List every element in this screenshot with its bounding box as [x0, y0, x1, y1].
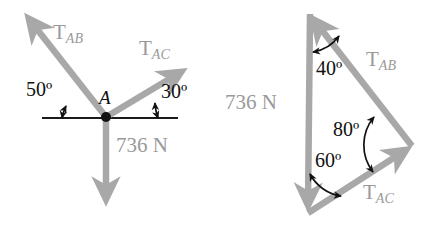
label-tab-right: TAB	[366, 49, 396, 73]
point-a-marker	[101, 112, 111, 122]
angle-label-40: 40º	[316, 58, 342, 78]
weight-label-left: 736 N	[116, 135, 168, 156]
label-tac-left: TAC	[139, 38, 170, 62]
point-label-a: A	[99, 88, 111, 107]
triangle-side-weight	[308, 14, 310, 205]
label-tac-left-subscript: AC	[152, 47, 170, 62]
angle-label-80: 80º	[333, 119, 359, 139]
angle-arc-80	[364, 117, 374, 172]
label-tab-right-subscript: AB	[379, 58, 396, 73]
label-tab-left: TAB	[53, 22, 83, 46]
weight-label-right: 736 N	[225, 92, 277, 113]
figure-canvas: TAB TAC 50º 30º A 736 N 736 N 40º 80º 60…	[0, 0, 422, 228]
triangle-side-tab	[314, 20, 412, 146]
angle-label-50: 50º	[26, 79, 52, 99]
angle-label-30: 30º	[161, 81, 187, 101]
angle-label-60: 60º	[315, 150, 341, 170]
angle-arc-30	[155, 103, 158, 118]
right-diagram-group	[308, 14, 412, 213]
label-tac-right-symbol: T	[363, 180, 376, 204]
label-tab-left-subscript: AB	[66, 31, 83, 46]
label-tab-right-symbol: T	[366, 47, 379, 71]
label-tac-right: TAC	[363, 182, 394, 206]
label-tac-left-symbol: T	[139, 36, 152, 60]
label-tab-left-symbol: T	[53, 20, 66, 44]
angle-arc-50	[62, 106, 66, 118]
label-tac-right-subscript: AC	[376, 191, 394, 206]
